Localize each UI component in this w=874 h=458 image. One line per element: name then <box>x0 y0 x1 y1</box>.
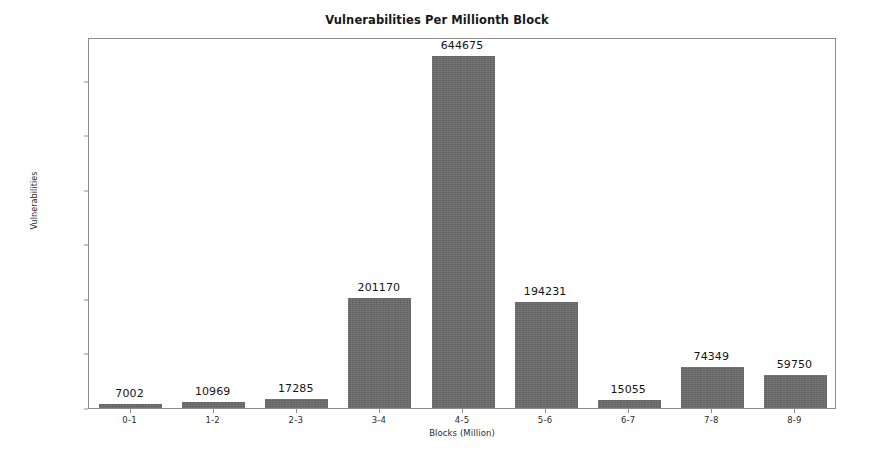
bar[interactable] <box>265 399 328 408</box>
x-axis-tick-label: 2-3 <box>289 415 303 425</box>
x-axis-tick-mark <box>794 409 795 413</box>
bar[interactable] <box>681 367 744 408</box>
bar-value-label: 17285 <box>278 382 314 395</box>
bar[interactable] <box>99 404 162 408</box>
bar[interactable] <box>348 298 411 408</box>
chart-figure: Vulnerabilities Per Millionth Block Vuln… <box>0 0 874 458</box>
bar-value-label: 15055 <box>610 383 646 396</box>
chart-title: Vulnerabilities Per Millionth Block <box>0 13 874 27</box>
bar[interactable] <box>432 56 495 408</box>
x-axis-tick-mark <box>628 409 629 413</box>
x-axis-label: Blocks (Million) <box>88 428 836 438</box>
x-axis-tick-label: 6-7 <box>621 415 635 425</box>
x-axis-tick-mark <box>711 409 712 413</box>
x-axis-tick-label: 8-9 <box>787 415 801 425</box>
x-axis-tick-label: 7-8 <box>704 415 718 425</box>
x-axis-tick-mark <box>130 409 131 413</box>
bar-value-label: 644675 <box>441 39 484 52</box>
bar-value-label: 10969 <box>195 385 231 398</box>
x-axis-tick-label: 1-2 <box>205 415 219 425</box>
bar-value-label: 59750 <box>777 358 813 371</box>
x-axis-tick-mark <box>379 409 380 413</box>
x-axis-tick-mark <box>296 409 297 413</box>
x-axis-tick-label: 4-5 <box>455 415 469 425</box>
x-axis-tick-mark <box>213 409 214 413</box>
bar-value-label: 201170 <box>358 281 401 294</box>
x-axis-tick-label: 3-4 <box>372 415 386 425</box>
bar[interactable] <box>515 302 578 408</box>
bar-value-label: 194231 <box>524 285 567 298</box>
x-axis-tick-label: 0-1 <box>122 415 136 425</box>
x-axis-tick-mark <box>462 409 463 413</box>
y-axis-tick-group: 0100000200000300000400000500000600000 <box>0 0 88 458</box>
x-axis-tick-mark <box>545 409 546 413</box>
bar[interactable] <box>598 400 661 408</box>
bar-value-label: 7002 <box>115 387 143 400</box>
bar[interactable] <box>764 375 827 408</box>
bar-value-label: 74349 <box>694 350 730 363</box>
bar[interactable] <box>182 402 245 408</box>
x-axis-tick-label: 5-6 <box>538 415 552 425</box>
